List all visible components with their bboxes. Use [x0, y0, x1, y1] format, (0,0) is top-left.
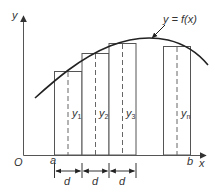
- width-label-2: d: [92, 175, 99, 187]
- mid-ordinate-diagram: y = f(x) y x O a b y1 y2 y3 yn d d d: [0, 0, 217, 192]
- limit-b-label: b: [187, 155, 193, 167]
- curve-label-pointer: [152, 25, 165, 38]
- limit-a-label: a: [50, 154, 56, 166]
- width-label-3: d: [119, 175, 126, 187]
- origin-label: O: [14, 156, 23, 168]
- curve-label: y = f(x): [162, 13, 197, 25]
- y-axis-label: y: [11, 9, 19, 21]
- width-label-1: d: [64, 175, 71, 187]
- x-axis-label: x: [198, 157, 205, 169]
